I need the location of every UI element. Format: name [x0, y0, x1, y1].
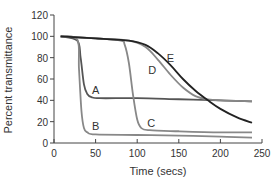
series-label-c: C	[147, 117, 155, 129]
x-tick-label: 100	[129, 148, 146, 159]
x-tick-label: 150	[170, 148, 187, 159]
series-line-a	[61, 36, 252, 101]
y-tick-label: 20	[37, 117, 49, 128]
series-label-b: B	[92, 120, 99, 132]
y-tick-label: 0	[42, 138, 48, 149]
series-label-e: E	[167, 52, 174, 64]
series-line-c	[61, 36, 252, 132]
series-label-d: D	[148, 64, 156, 76]
y-axis-label: Percent transmittance	[2, 27, 14, 134]
x-tick-label: 250	[254, 148, 271, 159]
y-tick-label: 40	[37, 95, 49, 106]
line-chart: 050100150200250020406080100120 ABCDE Tim…	[0, 0, 277, 184]
x-tick-label: 0	[51, 148, 57, 159]
series-line-d	[61, 36, 252, 101]
y-tick-label: 80	[37, 53, 49, 64]
series-label-a: A	[92, 84, 100, 96]
x-tick-label: 200	[212, 148, 229, 159]
x-axis-label: Time (secs)	[129, 165, 186, 177]
y-tick-label: 100	[31, 31, 48, 42]
series-line-e	[61, 36, 252, 122]
y-tick-label: 60	[37, 74, 49, 85]
x-tick-label: 50	[90, 148, 102, 159]
series-lines	[61, 36, 252, 138]
y-tick-label: 120	[31, 10, 48, 21]
